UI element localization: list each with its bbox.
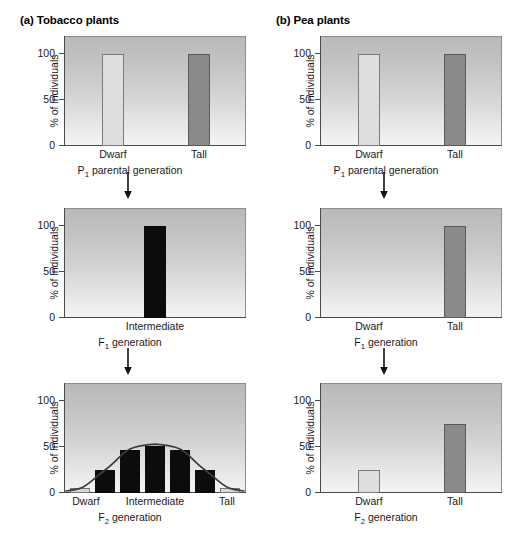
y-axis-label: % of individuals bbox=[48, 402, 60, 475]
xtick-label-dwarf: Dwarf bbox=[355, 495, 382, 507]
chart-tobacco-p1: 0 50 100 % of individuals Dwarf Tall P1 … bbox=[14, 36, 246, 146]
bar-f2-1 bbox=[70, 488, 90, 493]
caption-f2: F2 generation bbox=[14, 511, 246, 526]
bar-tall bbox=[444, 226, 466, 318]
y-axis-label: % of individuals bbox=[304, 402, 316, 475]
y-axis-label: % of individuals bbox=[304, 55, 316, 128]
y-axis-label: % of individuals bbox=[304, 227, 316, 300]
x-axis bbox=[64, 145, 246, 146]
ytick-label-0: 0 bbox=[49, 311, 55, 323]
xtick-label-dwarf: Dwarf bbox=[99, 148, 126, 160]
bar-f2-2 bbox=[95, 470, 115, 493]
arrow-down-icon bbox=[121, 348, 135, 376]
bar-dwarf bbox=[358, 470, 380, 493]
bar-tall bbox=[188, 54, 210, 146]
xtick-label-dwarf: Dwarf bbox=[355, 148, 382, 160]
panel-tobacco: (a) Tobacco plants 0 50 100 % of individ… bbox=[0, 0, 255, 537]
x-axis bbox=[320, 145, 502, 146]
panel-a-title: (a) Tobacco plants bbox=[20, 14, 119, 26]
xtick-label-dwarf: Dwarf bbox=[72, 495, 99, 507]
plot-area bbox=[64, 36, 246, 146]
arrow-down-icon bbox=[121, 172, 135, 200]
bar-dwarf bbox=[102, 54, 124, 146]
plot-area bbox=[320, 208, 502, 318]
xtick-label-dwarf: Dwarf bbox=[355, 320, 382, 332]
bar-dwarf bbox=[358, 54, 380, 146]
y-axis-label: % of individuals bbox=[48, 55, 60, 128]
bar-f2-4 bbox=[145, 446, 165, 493]
caption-f2: F2 generation bbox=[270, 511, 502, 526]
xtick-label-tall: Tall bbox=[447, 320, 463, 332]
plot-area bbox=[320, 383, 502, 493]
bar-tall bbox=[444, 54, 466, 146]
arrow-down-icon bbox=[377, 172, 391, 200]
y-axis-label: % of individuals bbox=[48, 227, 60, 300]
ytick-label-0: 0 bbox=[49, 486, 55, 498]
bar-f2-3 bbox=[120, 450, 140, 493]
bar-intermediate bbox=[144, 226, 166, 318]
chart-tobacco-f1: 0 50 100 % of individuals Intermediate F… bbox=[14, 208, 246, 318]
bar-f2-5 bbox=[170, 450, 190, 493]
ytick-label-0: 0 bbox=[305, 486, 311, 498]
panel-b-title: (b) Pea plants bbox=[276, 14, 350, 26]
xtick-label-tall: Tall bbox=[191, 148, 207, 160]
panel-pea: (b) Pea plants 0 50 100 % of individuals… bbox=[256, 0, 511, 537]
bar-f2-6 bbox=[195, 470, 215, 493]
bar-f2-7 bbox=[220, 488, 240, 493]
ytick-label-0: 0 bbox=[49, 139, 55, 151]
xtick-label-tall: Tall bbox=[447, 495, 463, 507]
chart-pea-f1: 0 50 100 % of individuals Dwarf Tall F1 … bbox=[270, 208, 502, 318]
x-axis bbox=[320, 317, 502, 318]
bar-tall bbox=[444, 424, 466, 493]
ytick-label-0: 0 bbox=[305, 139, 311, 151]
ytick-label-0: 0 bbox=[305, 311, 311, 323]
chart-pea-p1: 0 50 100 % of individuals Dwarf Tall P1 … bbox=[270, 36, 502, 146]
xtick-label-tall: Tall bbox=[447, 148, 463, 160]
xtick-label-tall: Tall bbox=[219, 495, 235, 507]
genetics-inheritance-figure: (a) Tobacco plants 0 50 100 % of individ… bbox=[0, 0, 511, 537]
chart-pea-f2: 0 50 100 % of individuals Dwarf Tall F2 … bbox=[270, 383, 502, 493]
xtick-label-intermediate: Intermediate bbox=[126, 320, 184, 332]
xtick-label-intermediate: Intermediate bbox=[126, 495, 184, 507]
plot-area bbox=[320, 36, 502, 146]
arrow-down-icon bbox=[377, 348, 391, 376]
chart-tobacco-f2: 0 50 100 % of individuals Dwarf Intermed… bbox=[14, 383, 246, 493]
x-axis bbox=[320, 492, 502, 493]
